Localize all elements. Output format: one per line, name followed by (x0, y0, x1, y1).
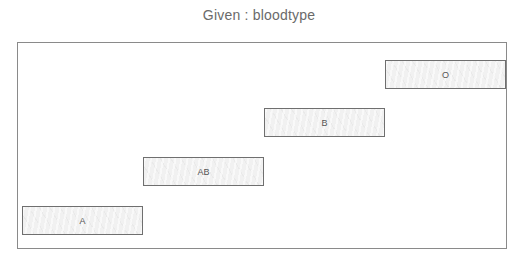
diagram-title: Given : bloodtype (0, 7, 518, 23)
category-bar-ab: AB (143, 157, 264, 186)
category-bar-b: B (264, 108, 385, 137)
category-bar-o: O (385, 60, 506, 89)
category-bar-a: A (22, 206, 143, 235)
category-label-a: A (79, 216, 85, 226)
category-label-b: B (321, 118, 327, 128)
category-label-ab: AB (197, 167, 209, 177)
category-label-o: O (442, 70, 449, 80)
